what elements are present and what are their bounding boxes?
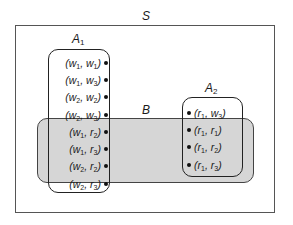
outcome-a1-3: (w2, w2) bbox=[54, 89, 110, 106]
outcome-a1-4: (w2, w3) bbox=[54, 106, 110, 123]
outcome-label: (w2, r3) bbox=[69, 178, 101, 190]
point-marker-icon bbox=[104, 182, 108, 186]
outcome-label: (w1, r2) bbox=[69, 126, 101, 138]
outcome-label: (w1, w1) bbox=[65, 57, 101, 69]
point-marker-icon bbox=[104, 164, 108, 168]
outcome-label: (r1, r3) bbox=[194, 159, 222, 171]
label-b: B bbox=[142, 104, 150, 116]
point-marker-icon bbox=[187, 128, 191, 132]
point-marker-icon bbox=[104, 130, 108, 134]
outcome-label: (w2, r2) bbox=[69, 160, 101, 172]
outcome-a1-1: (w1, w1) bbox=[54, 54, 110, 71]
outcome-a1-6: (w1, r3) bbox=[54, 140, 110, 157]
a2-elements-list: (r1, w3)(r1, r1)(r1, r2)(r1, r3) bbox=[187, 104, 243, 173]
point-marker-icon bbox=[104, 61, 108, 65]
outcome-label: (w2, w3) bbox=[65, 109, 101, 121]
outcome-a1-8: (w2, r3) bbox=[54, 175, 110, 192]
outcome-a1-7: (w2, r2) bbox=[54, 158, 110, 175]
outcome-a2-2: (r1, r1) bbox=[187, 121, 243, 138]
outcome-label: (w2, w2) bbox=[65, 91, 101, 103]
outcome-a2-1: (r1, w3) bbox=[187, 104, 243, 121]
point-marker-icon bbox=[104, 95, 108, 99]
outcome-label: (r1, r1) bbox=[194, 124, 222, 136]
outcome-a2-3: (r1, r2) bbox=[187, 139, 243, 156]
point-marker-icon bbox=[104, 147, 108, 151]
point-marker-icon bbox=[104, 78, 108, 82]
point-marker-icon bbox=[187, 145, 191, 149]
outcome-label: (r1, r2) bbox=[194, 141, 222, 153]
outcome-label: (w1, r3) bbox=[69, 143, 101, 155]
outcome-label: (r1, w3) bbox=[194, 107, 226, 119]
label-a1: A1 bbox=[72, 33, 84, 49]
outcome-label: (w1, w3) bbox=[65, 74, 101, 86]
label-s: S bbox=[142, 10, 150, 22]
outcome-a1-2: (w1, w3) bbox=[54, 71, 110, 88]
point-marker-icon bbox=[187, 111, 191, 115]
point-marker-icon bbox=[104, 113, 108, 117]
outcome-a2-4: (r1, r3) bbox=[187, 156, 243, 173]
outcome-a1-5: (w1, r2) bbox=[54, 123, 110, 140]
a1-elements-list: (w1, w1)(w1, w3)(w2, w2)(w2, w3)(w1, r2)… bbox=[54, 54, 110, 192]
point-marker-icon bbox=[187, 163, 191, 167]
label-a2: A2 bbox=[205, 82, 217, 98]
